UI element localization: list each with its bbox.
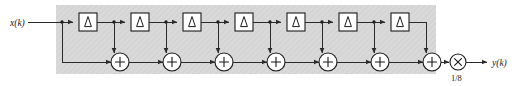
delay-block-2 (131, 13, 149, 31)
diagram-canvas: x(k) y(k) 1/8 (0, 0, 520, 86)
input-label: x(k) (9, 18, 25, 29)
adder-5 (319, 53, 337, 71)
output-label: y(k) (491, 58, 507, 69)
adder-6 (371, 53, 389, 71)
delay-block-7 (391, 13, 409, 31)
adder-1 (111, 53, 129, 71)
adder-7 (423, 53, 441, 71)
delay-block-6 (339, 13, 357, 31)
output-branch (441, 54, 487, 70)
adder-3 (215, 53, 233, 71)
delay-block-5 (287, 13, 305, 31)
adder-2 (163, 53, 181, 71)
gain-label: 1/8 (451, 73, 462, 83)
delay-block-4 (235, 13, 253, 31)
delay-block-3 (183, 13, 201, 31)
delay-block-1 (79, 13, 97, 31)
adder-4 (267, 53, 285, 71)
filter-diagram: x(k) y(k) 1/8 (0, 0, 520, 86)
gain-multiplier (450, 54, 466, 70)
